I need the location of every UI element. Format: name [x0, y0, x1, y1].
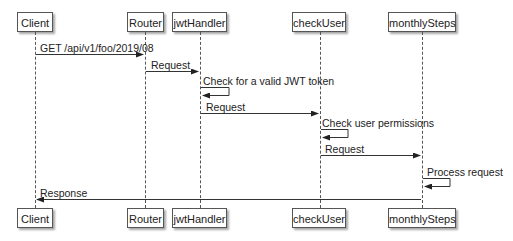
arrow-self-permissions [321, 130, 348, 138]
message-label-checkuser-request: Request [325, 143, 364, 155]
message-label-permissions: Check user permissions [322, 117, 434, 129]
message-label-jwt-check: Check for a valid JWT token [203, 75, 334, 87]
message-arrows [0, 0, 513, 241]
message-label-response: Response [40, 187, 87, 199]
participant-jwthandler-bottom: jwtHandler [172, 208, 227, 228]
message-label-router-request: Request [151, 59, 190, 71]
arrow-self-jwt-check [201, 88, 229, 96]
message-label-jwt-request: Request [206, 101, 245, 113]
message-label-get: GET /api/v1/foo/2019/08 [40, 42, 154, 54]
participant-client-bottom: Client [17, 208, 53, 228]
message-label-process: Process request [427, 166, 503, 178]
participant-router-bottom: Router [127, 208, 164, 228]
participant-monthlysteps-bottom: monthlySteps [388, 208, 456, 228]
participant-checkuser-bottom: checkUser [292, 208, 346, 228]
arrow-self-process [423, 179, 450, 187]
